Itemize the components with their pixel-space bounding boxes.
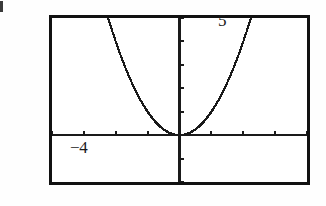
y-min-label: −2 [218, 204, 236, 206]
axes-group [52, 18, 307, 182]
graph-viewport: 5 −4 4 −2 [49, 15, 310, 185]
x-min-label: −4 [70, 139, 88, 156]
graph-plot [52, 18, 307, 182]
scan-artifact [0, 1, 3, 12]
y-max-label: 5 [218, 12, 226, 29]
